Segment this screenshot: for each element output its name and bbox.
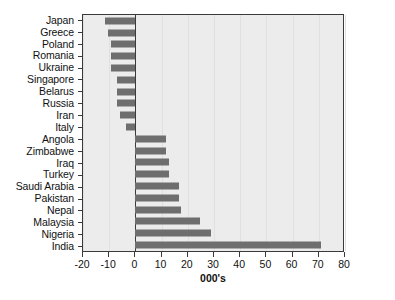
x-tick-label: 0 <box>131 257 137 271</box>
gridline <box>345 15 346 251</box>
bar-series <box>83 15 343 251</box>
bar <box>135 159 169 166</box>
x-tick-label: 10 <box>155 257 167 271</box>
y-axis-label: Zimbabwe <box>0 145 78 157</box>
bar <box>105 17 135 24</box>
bar <box>135 242 321 249</box>
bar <box>135 147 165 154</box>
bar-row <box>83 133 343 145</box>
bar-row <box>83 227 343 239</box>
y-axis-category-labels: JapanGreecePolandRomaniaUkraineSingapore… <box>0 14 78 252</box>
bar-row <box>83 239 343 251</box>
bar-row <box>83 192 343 204</box>
y-axis-label: Russia <box>0 97 78 109</box>
y-axis-label: Italy <box>0 121 78 133</box>
bar <box>117 100 135 107</box>
bar-row <box>83 27 343 39</box>
x-tick-label: 70 <box>312 257 324 271</box>
bar <box>111 41 136 48</box>
y-axis-label: Nepal <box>0 205 78 217</box>
bar <box>111 53 136 60</box>
bar-row <box>83 168 343 180</box>
bar <box>135 183 178 190</box>
y-axis-label: Nigeria <box>0 228 78 240</box>
y-axis-label: Romania <box>0 50 78 62</box>
bar <box>135 218 199 225</box>
bar <box>135 194 178 201</box>
y-axis-label: India <box>0 240 78 252</box>
bar <box>126 124 135 131</box>
bar-row <box>83 121 343 133</box>
y-axis-label: Iran <box>0 109 78 121</box>
horizontal-bar-chart: JapanGreecePolandRomaniaUkraineSingapore… <box>0 0 395 300</box>
y-axis-label: Malaysia <box>0 216 78 228</box>
bar <box>117 88 135 95</box>
y-axis-label: Iraq <box>0 157 78 169</box>
bar-row <box>83 157 343 169</box>
plot-area <box>82 14 344 252</box>
bar-row <box>83 145 343 157</box>
y-axis-label: Poland <box>0 38 78 50</box>
y-axis-label: Greece <box>0 26 78 38</box>
bar-row <box>83 180 343 192</box>
bar-row <box>83 204 343 216</box>
bar <box>135 206 181 213</box>
bar <box>135 135 165 142</box>
bar-row <box>83 15 343 27</box>
y-axis-label: Japan <box>0 14 78 26</box>
y-axis-label: Angola <box>0 133 78 145</box>
bar <box>108 29 136 36</box>
x-axis-title: 000's <box>82 272 344 284</box>
y-axis-label: Singapore <box>0 74 78 86</box>
y-axis-label: Saudi Arabia <box>0 181 78 193</box>
bar <box>117 76 135 83</box>
y-axis-label: Pakistan <box>0 193 78 205</box>
bar <box>135 230 211 237</box>
x-tick-label: 80 <box>338 257 350 271</box>
x-tick-label: 50 <box>260 257 272 271</box>
bar-row <box>83 39 343 51</box>
x-tick-label: 60 <box>286 257 298 271</box>
bar <box>135 171 169 178</box>
bar <box>111 65 136 72</box>
y-axis-label: Belarus <box>0 85 78 97</box>
bar <box>120 112 136 119</box>
bar-row <box>83 62 343 74</box>
x-tick-label: -10 <box>101 257 116 271</box>
y-axis-label: Ukraine <box>0 62 78 74</box>
bar-row <box>83 109 343 121</box>
bar-row <box>83 98 343 110</box>
bar-row <box>83 86 343 98</box>
x-tick-label: 30 <box>207 257 219 271</box>
bar-row <box>83 74 343 86</box>
y-axis-label: Turkey <box>0 169 78 181</box>
x-tick-label: 20 <box>181 257 193 271</box>
bar-row <box>83 216 343 228</box>
x-tick-label: 40 <box>233 257 245 271</box>
bar-row <box>83 50 343 62</box>
x-axis-tick-labels: -20-1001020304050607080 <box>82 257 344 271</box>
x-tick-label: -20 <box>74 257 89 271</box>
